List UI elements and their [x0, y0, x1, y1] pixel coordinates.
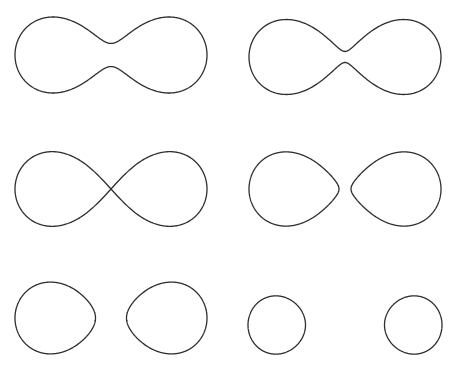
panel-bottom-right	[248, 296, 442, 354]
panel-top-left	[15, 17, 207, 93]
panel-middle-left	[15, 152, 207, 227]
cassini-curve	[15, 282, 207, 354]
panel-bottom-left	[15, 282, 207, 354]
cassini-curve	[15, 17, 207, 93]
panel-top-right	[249, 20, 441, 95]
cassini-curve	[249, 20, 441, 95]
cassini-curve	[15, 152, 207, 227]
cassini-curve	[249, 152, 441, 226]
cassini-curve	[248, 296, 442, 354]
cassini-ovals-figure	[0, 0, 454, 367]
panel-middle-right	[249, 152, 441, 226]
